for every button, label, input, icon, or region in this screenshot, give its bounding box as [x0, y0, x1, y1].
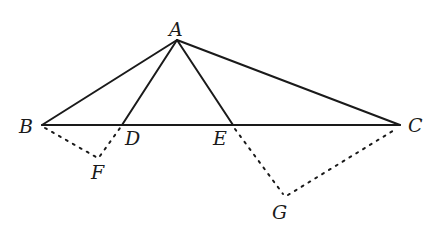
label-c: C: [408, 114, 423, 136]
label-f: F: [90, 161, 105, 183]
label-a: A: [167, 18, 183, 40]
segment-ab: [42, 40, 177, 125]
segment-ac: [177, 40, 400, 125]
segment-gc: [288, 129, 396, 195]
segment-fd: [100, 128, 120, 156]
segment-ae: [177, 40, 233, 125]
label-b: B: [18, 115, 33, 137]
segment-bf: [45, 128, 96, 157]
label-d: D: [124, 127, 140, 149]
label-e: E: [212, 127, 227, 149]
geometry-diagram: A B C D E F G: [0, 0, 437, 237]
label-g: G: [272, 201, 287, 223]
segment-ad: [122, 40, 177, 125]
segment-eg: [235, 129, 283, 194]
